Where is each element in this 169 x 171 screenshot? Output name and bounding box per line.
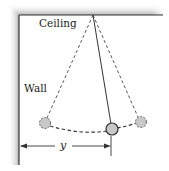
left-string-dashed: [47, 15, 93, 118]
right-string-dashed: [93, 15, 138, 117]
ghost-ball-right: [136, 117, 147, 128]
ghost-ball-left: [40, 118, 51, 129]
pendulum-bob: [106, 123, 118, 135]
ceiling-label: Ceiling: [39, 17, 77, 29]
distance-label: y: [59, 139, 67, 152]
swing-arc-right: [117, 123, 136, 128]
arrowhead-right-icon: [104, 144, 111, 149]
wall-label: Wall: [24, 82, 47, 94]
pendulum-string: [93, 15, 111, 124]
wall-shading: [8, 4, 19, 165]
pendulum-diagram: Ceiling Wall y: [0, 0, 169, 171]
swing-arc: [50, 126, 107, 132]
arrowhead-left-icon: [20, 144, 27, 149]
